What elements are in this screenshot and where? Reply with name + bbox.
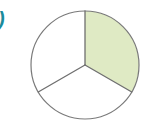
fraction-circle-diagram [0, 0, 151, 125]
figure-canvas: a) [0, 0, 151, 125]
